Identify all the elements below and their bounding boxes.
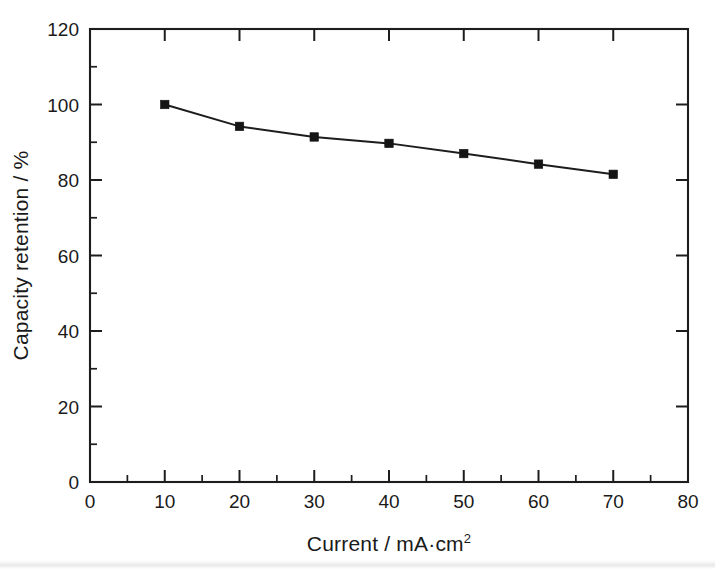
x-axis-title: Current / mA·cm2 <box>307 531 471 555</box>
x-tick-label: 20 <box>229 491 250 512</box>
y-tick-label: 60 <box>58 246 79 267</box>
x-tick-label: 0 <box>85 491 96 512</box>
y-tick-label: 80 <box>58 170 79 191</box>
x-tick-label: 10 <box>154 491 175 512</box>
scan-edge-artifact <box>0 560 715 569</box>
y-tick-label: 20 <box>58 397 79 418</box>
data-point-marker <box>161 100 170 109</box>
data-point-marker <box>310 133 319 142</box>
data-point-marker <box>460 149 469 158</box>
y-tick-label: 120 <box>47 19 79 40</box>
chart-background <box>0 0 715 569</box>
data-point-marker <box>609 170 618 179</box>
x-axis-title-superscript: 2 <box>464 531 471 546</box>
y-tick-label: 100 <box>47 95 79 116</box>
x-axis-title-base: Current / mA·cm <box>307 532 464 555</box>
x-tick-label: 70 <box>603 491 624 512</box>
x-tick-label: 40 <box>378 491 399 512</box>
y-tick-label: 40 <box>58 321 79 342</box>
x-tick-label: 30 <box>304 491 325 512</box>
x-tick-label: 60 <box>528 491 549 512</box>
data-point-marker <box>235 122 244 131</box>
y-tick-label: 0 <box>68 472 79 493</box>
x-tick-label: 80 <box>677 491 698 512</box>
capacity-retention-line-chart: 0 10 20 30 40 50 60 70 80 0 20 40 60 80 … <box>0 0 715 569</box>
x-tick-label: 50 <box>453 491 474 512</box>
y-axis-title: Capacity retention / % <box>9 151 32 361</box>
data-point-marker <box>385 139 394 148</box>
data-point-marker <box>534 160 543 169</box>
